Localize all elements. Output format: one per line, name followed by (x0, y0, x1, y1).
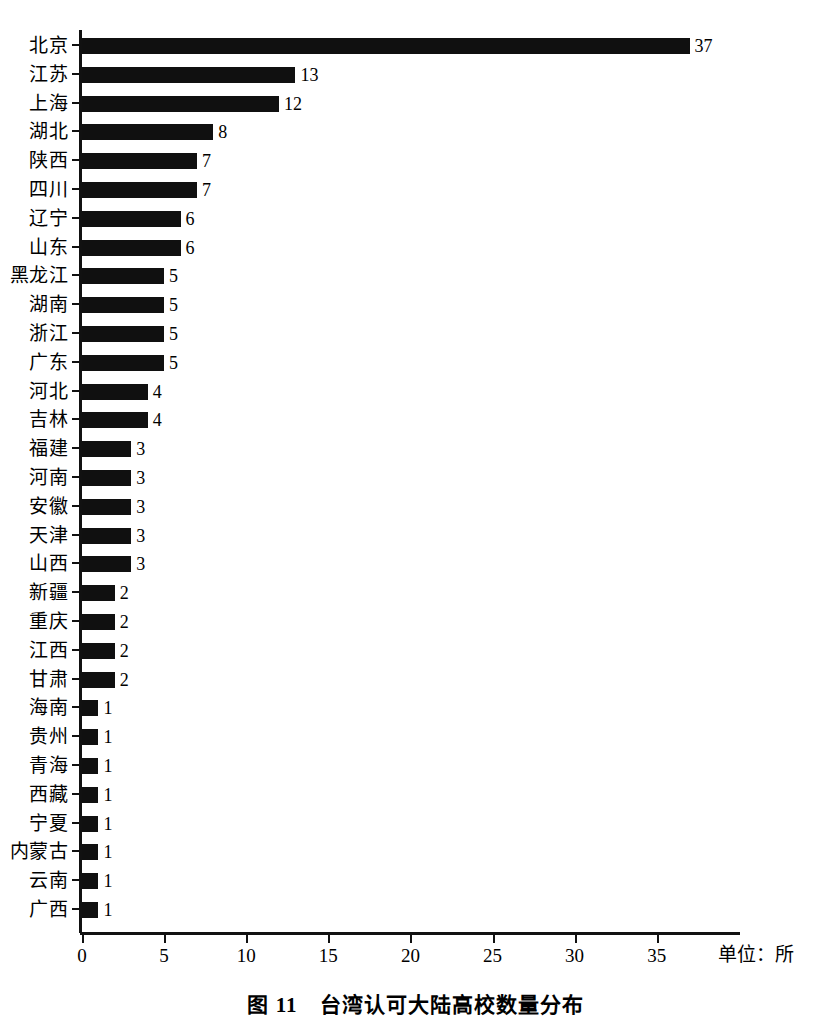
bar-value-label: 6 (186, 207, 195, 231)
bar-row: 上海12 (0, 96, 831, 112)
category-label: 陕西 (29, 149, 68, 173)
category-label: 云南 (29, 869, 68, 893)
bar (82, 268, 164, 284)
y-axis-tick (72, 879, 80, 881)
bar-value-label: 3 (136, 552, 145, 576)
bar-row: 湖北8 (0, 124, 831, 140)
bar-row: 山东6 (0, 240, 831, 256)
bar (82, 729, 98, 745)
bar-row: 重庆2 (0, 614, 831, 630)
y-axis-tick (72, 649, 80, 651)
y-axis-tick (72, 130, 80, 132)
bar (82, 816, 98, 832)
category-label: 贵州 (29, 725, 68, 749)
bar (82, 873, 98, 889)
bar (82, 38, 690, 54)
x-axis-tick (328, 935, 330, 943)
bar-row: 陕西7 (0, 153, 831, 169)
x-axis-unit-label: 单位：所 (718, 942, 794, 968)
bar-row: 北京37 (0, 38, 831, 54)
bar-row: 甘肃2 (0, 672, 831, 688)
category-label: 内蒙古 (10, 840, 69, 864)
bar-value-label: 1 (103, 812, 112, 836)
y-axis-tick (72, 303, 80, 305)
plot-area: 北京37江苏13上海12湖北8陕西7四川7辽宁6山东6黑龙江5湖南5浙江5广东5… (0, 0, 831, 940)
bar (82, 355, 164, 371)
y-axis-tick (72, 361, 80, 363)
category-label: 天津 (29, 524, 68, 548)
y-axis-tick (72, 822, 80, 824)
y-axis-tick (72, 591, 80, 593)
bar-row: 河北4 (0, 384, 831, 400)
bar-value-label: 4 (153, 380, 162, 404)
x-axis-tick-label: 15 (319, 944, 338, 968)
bar (82, 700, 98, 716)
y-axis-tick (72, 73, 80, 75)
bar-row: 湖南5 (0, 297, 831, 313)
category-label: 北京 (29, 34, 68, 58)
bar-row: 浙江5 (0, 326, 831, 342)
bar (82, 614, 115, 630)
category-label: 山西 (29, 552, 68, 576)
bar (82, 441, 131, 457)
bar-row: 内蒙古1 (0, 844, 831, 860)
bar-value-label: 2 (120, 610, 129, 634)
category-label: 广东 (29, 351, 68, 375)
category-label: 新疆 (29, 581, 68, 605)
bar-value-label: 1 (103, 898, 112, 922)
bar-row: 云南1 (0, 873, 831, 889)
x-axis-tick-label: 0 (77, 944, 87, 968)
category-label: 甘肃 (29, 668, 68, 692)
bar-row: 江西2 (0, 643, 831, 659)
y-axis-tick (72, 793, 80, 795)
bar-row: 贵州1 (0, 729, 831, 745)
bar (82, 240, 181, 256)
bar-row: 河南3 (0, 470, 831, 486)
category-label: 福建 (29, 437, 68, 461)
bar-value-label: 5 (169, 351, 178, 375)
category-label: 辽宁 (29, 207, 68, 231)
bar-value-label: 13 (300, 63, 318, 87)
bar-row: 海南1 (0, 700, 831, 716)
bar-row: 广西1 (0, 902, 831, 918)
x-axis-tick (493, 935, 495, 943)
y-axis-tick (72, 735, 80, 737)
bar-value-label: 1 (103, 696, 112, 720)
y-axis-tick (72, 188, 80, 190)
bar-row: 新疆2 (0, 585, 831, 601)
bar (82, 787, 98, 803)
y-axis-tick (72, 764, 80, 766)
category-label: 上海 (29, 92, 68, 116)
bar (82, 643, 115, 659)
y-axis-tick (72, 447, 80, 449)
bar-value-label: 2 (120, 668, 129, 692)
bar (82, 211, 181, 227)
y-axis-tick (72, 159, 80, 161)
x-axis-tick (575, 935, 577, 943)
x-axis-tick-label: 5 (159, 944, 169, 968)
bar (82, 297, 164, 313)
category-label: 青海 (29, 754, 68, 778)
y-axis-tick (72, 476, 80, 478)
bar-value-label: 8 (218, 120, 227, 144)
bar-value-label: 7 (202, 149, 211, 173)
bar-row: 山西3 (0, 556, 831, 572)
x-axis-tick-label: 20 (401, 944, 420, 968)
bar-value-label: 1 (103, 725, 112, 749)
category-label: 安徽 (29, 495, 68, 519)
y-axis-tick (72, 44, 80, 46)
bar-row: 黑龙江5 (0, 268, 831, 284)
bar-value-label: 3 (136, 524, 145, 548)
bar-value-label: 2 (120, 639, 129, 663)
category-label: 西藏 (29, 783, 68, 807)
category-label: 黑龙江 (10, 264, 69, 288)
category-label: 吉林 (29, 408, 68, 432)
y-axis-tick (72, 562, 80, 564)
x-axis-tick-label: 10 (237, 944, 256, 968)
category-label: 湖北 (29, 120, 68, 144)
category-label: 四川 (29, 178, 68, 202)
x-axis-tick (246, 935, 248, 943)
bar-row: 安徽3 (0, 499, 831, 515)
category-label: 海南 (29, 696, 68, 720)
category-label: 河南 (29, 466, 68, 490)
